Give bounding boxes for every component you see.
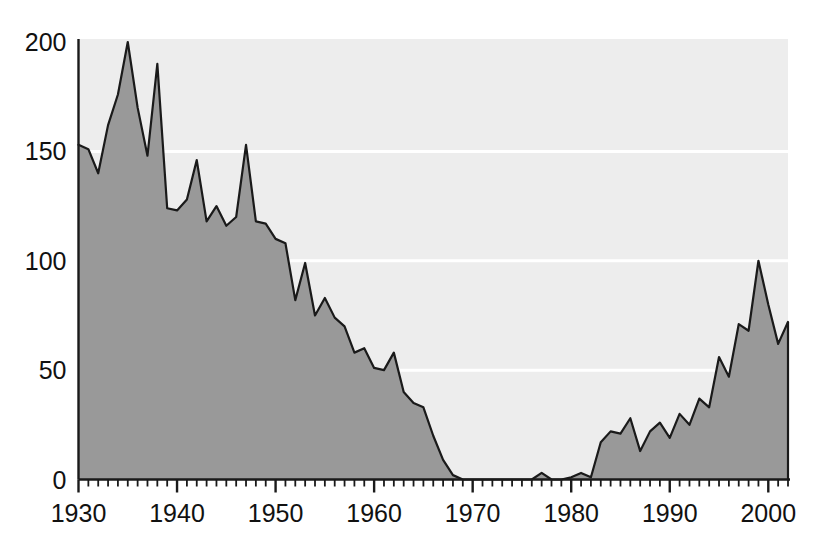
x-tick-label-1980: 1980 xyxy=(543,499,599,527)
x-tick-label-1930: 1930 xyxy=(51,499,107,527)
y-tick-label-200: 200 xyxy=(25,28,67,56)
area-chart: 050100150200 193019401950196019701980199… xyxy=(0,0,818,544)
x-axis-tick-labels: 19301940195019601970198019902000 xyxy=(51,499,796,527)
chart-container: 050100150200 193019401950196019701980199… xyxy=(0,0,818,544)
x-axis-ticks xyxy=(79,480,789,493)
x-tick-label-2000: 2000 xyxy=(740,499,796,527)
x-tick-label-1990: 1990 xyxy=(642,499,698,527)
x-tick-label-1960: 1960 xyxy=(346,499,402,527)
y-axis-tick-labels: 050100150200 xyxy=(25,28,67,494)
y-tick-label-100: 100 xyxy=(25,247,67,275)
x-tick-label-1950: 1950 xyxy=(248,499,304,527)
y-tick-label-0: 0 xyxy=(53,466,67,494)
x-tick-label-1970: 1970 xyxy=(445,499,501,527)
x-tick-label-1940: 1940 xyxy=(149,499,205,527)
y-tick-label-50: 50 xyxy=(39,356,67,384)
y-tick-label-150: 150 xyxy=(25,137,67,165)
